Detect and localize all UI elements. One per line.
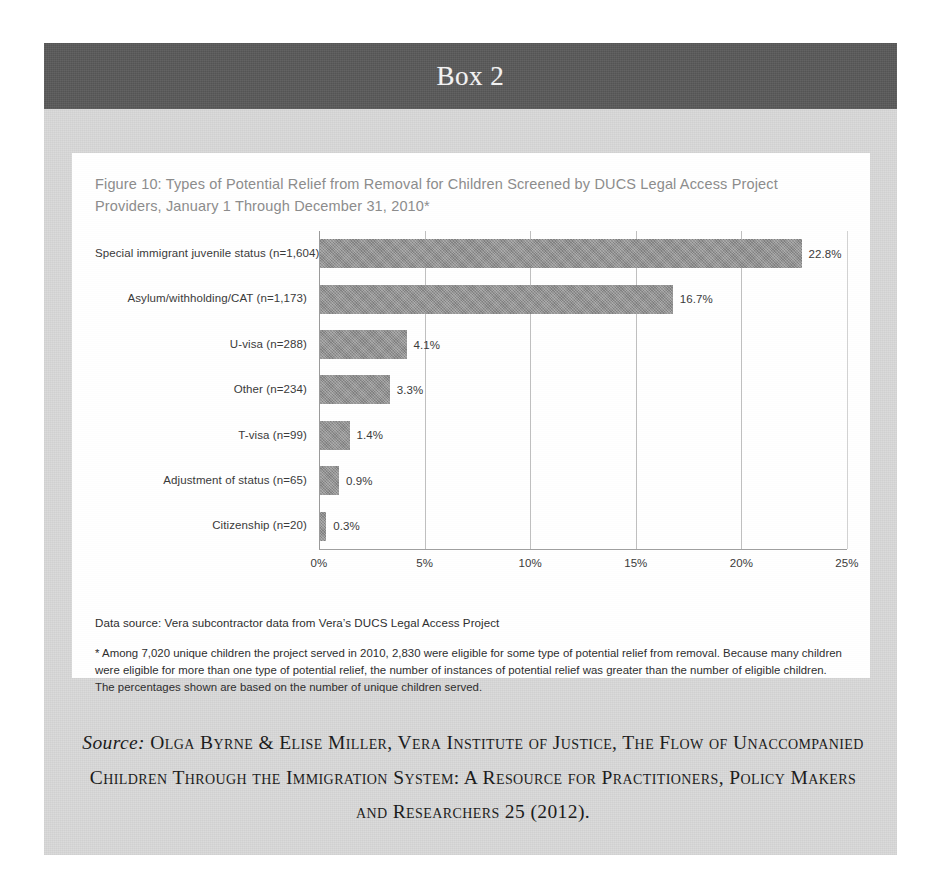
bar: [320, 239, 802, 268]
x-tick-label: 5%: [416, 557, 433, 569]
bar-row: Special immigrant juvenile status (n=1,6…: [95, 231, 847, 276]
box-container: Box 2 Figure 10: Types of Potential Reli…: [44, 43, 897, 855]
figure-notes: Data source: Vera subcontractor data fro…: [95, 615, 847, 697]
x-tick-label: 10%: [519, 557, 542, 569]
x-axis-tick-labels: 0%5%10%15%20%25%: [319, 557, 847, 579]
bar-row: U-visa (n=288)4.1%: [95, 322, 847, 367]
source-citation: Source: Olga Byrne & Elise Miller, Vera …: [78, 726, 868, 830]
bar-chart: Special immigrant juvenile status (n=1,6…: [95, 231, 847, 589]
bar: [320, 330, 407, 359]
bar-category-label: U-visa (n=288): [95, 338, 307, 352]
bar: [320, 421, 350, 450]
bar: [320, 285, 673, 314]
data-source-note: Data source: Vera subcontractor data fro…: [95, 615, 847, 632]
bar-track: 3.3%: [320, 367, 423, 412]
asterisk-footnote: * Among 7,020 unique children the projec…: [95, 645, 847, 697]
bar-value-label: 4.1%: [414, 339, 441, 351]
bar: [320, 512, 326, 541]
bar-track: 1.4%: [320, 413, 383, 458]
bar-row: Citizenship (n=20)0.3%: [95, 504, 847, 549]
bar-row: Asylum/withholding/CAT (n=1,173)16.7%: [95, 276, 847, 321]
bar: [320, 466, 339, 495]
gridline-25pct: [847, 231, 848, 549]
source-citation-text: Olga Byrne & Elise Miller, Vera Institut…: [90, 732, 864, 822]
x-tick-label: 0%: [311, 557, 328, 569]
bar-category-label: Special immigrant juvenile status (n=1,6…: [95, 247, 307, 261]
bar-category-label: Asylum/withholding/CAT (n=1,173): [95, 292, 307, 306]
box-title: Box 2: [437, 63, 505, 90]
bar-value-label: 0.9%: [346, 475, 373, 487]
bar-track: 0.3%: [320, 504, 360, 549]
bar-track: 16.7%: [320, 276, 713, 321]
figure-caption: Figure 10: Types of Potential Relief fro…: [95, 173, 835, 217]
figure-panel: Figure 10: Types of Potential Relief fro…: [72, 153, 870, 678]
x-axis-baseline: [319, 549, 847, 550]
bar: [320, 375, 390, 404]
bar-category-label: Citizenship (n=20): [95, 519, 307, 533]
source-label: Source:: [82, 732, 145, 753]
bar-category-label: Other (n=234): [95, 383, 307, 397]
x-tick-label: 20%: [730, 557, 753, 569]
bar-row: Other (n=234)3.3%: [95, 367, 847, 412]
bar-category-label: T-visa (n=99): [95, 429, 307, 443]
bar-value-label: 0.3%: [333, 520, 360, 532]
bar-value-label: 16.7%: [680, 293, 713, 305]
bar-track: 4.1%: [320, 322, 440, 367]
bar-row: T-visa (n=99)1.4%: [95, 413, 847, 458]
chart-plot-wrapper: Special immigrant juvenile status (n=1,6…: [95, 231, 847, 549]
x-tick-label: 15%: [624, 557, 647, 569]
bar-value-label: 22.8%: [809, 248, 842, 260]
bar-track: 0.9%: [320, 458, 373, 503]
bar-value-label: 3.3%: [397, 384, 424, 396]
bar-category-label: Adjustment of status (n=65): [95, 474, 307, 488]
scanned-page: Box 2 Figure 10: Types of Potential Reli…: [0, 0, 941, 890]
bar-track: 22.8%: [320, 231, 842, 276]
bar-row: Adjustment of status (n=65)0.9%: [95, 458, 847, 503]
x-tick-label: 25%: [835, 557, 858, 569]
box-header-band: Box 2: [44, 43, 897, 109]
bar-value-label: 1.4%: [357, 429, 384, 441]
